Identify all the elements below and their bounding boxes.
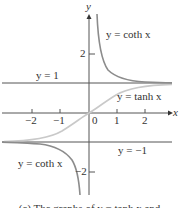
x-tick-label: −1 (53, 115, 65, 126)
x-tick-label: −2 (25, 115, 37, 126)
y-tick-label: 2 (80, 48, 86, 59)
y-one-label: y = 1 (36, 70, 59, 81)
coth-curve-positive (97, 14, 172, 83)
y-tick-label: −2 (75, 166, 87, 177)
y-neg-one-label: y = −1 (118, 145, 147, 156)
figure-caption: (c) The graphs of y = tanh x and (0, 202, 179, 208)
x-tick-label: 2 (142, 115, 148, 126)
coth-top-label: y = coth x (106, 29, 150, 40)
coth-bottom-label: y = coth x (18, 158, 62, 169)
x-tick-label: 1 (114, 115, 120, 126)
x-axis-label: x (173, 107, 178, 118)
x-tick-label: 0 (92, 115, 98, 126)
y-axis-arrow-icon (87, 14, 92, 19)
plot-area (0, 0, 179, 208)
y-axis-label: y (86, 1, 91, 12)
tanh-label: y = tanh x (117, 91, 161, 102)
